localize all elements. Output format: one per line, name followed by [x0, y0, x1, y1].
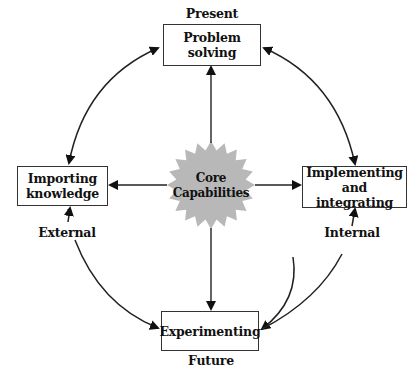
- core-capabilities-line1: Core: [166, 171, 256, 186]
- node-importing-knowledge-line1: Importing: [26, 171, 99, 186]
- node-problem-solving: Problem solving: [163, 24, 261, 66]
- axis-label-present: Present: [185, 6, 239, 21]
- axis-label-future: Future: [186, 353, 236, 368]
- core-capabilities-line2: Capabilities: [166, 186, 256, 201]
- node-experimenting-line1: Experimenting: [159, 324, 260, 339]
- node-experimenting: Experimenting: [161, 311, 259, 351]
- node-implementing-integrating-line2: and integrating: [303, 180, 406, 210]
- node-implementing-integrating-line1: Implementing: [303, 165, 406, 180]
- node-importing-knowledge: Importing knowledge: [17, 166, 108, 206]
- node-problem-solving-line2: solving: [183, 45, 241, 60]
- node-implementing-integrating: Implementing and integrating: [302, 166, 407, 208]
- core-capabilities-label: Core Capabilities: [166, 171, 256, 201]
- node-problem-solving-line1: Problem: [183, 30, 241, 45]
- axis-label-internal: Internal: [322, 225, 382, 240]
- axis-label-external: External: [34, 225, 100, 240]
- curve-right-bottom-head: [352, 209, 355, 226]
- curve-top-right: [264, 48, 355, 164]
- core-capabilities-diagram: Present Future External Internal Problem…: [0, 0, 416, 380]
- curve-top-left: [69, 48, 158, 163]
- curve-right-bottom: [262, 257, 294, 329]
- node-importing-knowledge-line2: knowledge: [26, 186, 99, 201]
